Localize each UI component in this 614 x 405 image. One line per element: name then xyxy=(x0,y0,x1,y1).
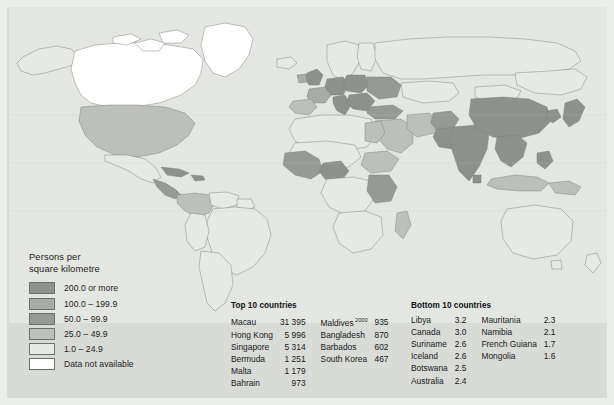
top-name-9: Barbados xyxy=(321,342,375,354)
legend-label-200-or-more: 200.0 or more xyxy=(64,283,118,293)
bottom-name-7: Mauritania xyxy=(481,315,543,327)
top-note-7: 2000 xyxy=(355,317,367,323)
bottom-value-2: 3.0 xyxy=(455,327,482,339)
bottom-10-title: Bottom 10 countries xyxy=(411,301,556,310)
top-value-blank-2 xyxy=(375,378,389,390)
legend-swatch-25-49 xyxy=(29,328,55,340)
top-name-1: Macau xyxy=(231,315,280,330)
country-ireland[interactable] xyxy=(297,74,307,83)
bottom-name-9: French Guiana xyxy=(481,339,543,351)
table-row: Hong Kong 5 996 Bangladesh 870 xyxy=(231,330,389,342)
top-value-2: 5 996 xyxy=(280,330,321,342)
top-value-4: 1 251 xyxy=(280,354,321,366)
bottom-name-blank-2 xyxy=(481,376,543,388)
bottom-name-1: Libya xyxy=(411,315,455,327)
bottom-10-table: Bottom 10 countries Libya 3.2 Mauritania… xyxy=(411,301,556,388)
bottom-name-6: Australia xyxy=(411,376,455,388)
top-value-3: 5 314 xyxy=(280,342,321,354)
legend-swatch-1-24 xyxy=(29,343,55,355)
top-value-blank-1 xyxy=(375,366,389,378)
top-10-title: Top 10 countries xyxy=(231,301,389,310)
top-value-5: 1 179 xyxy=(280,366,321,378)
country-sri-lanka[interactable] xyxy=(473,175,481,183)
table-row: Australia 2.4 xyxy=(411,376,556,388)
legend-item-no-data[interactable]: Data not available xyxy=(29,357,214,372)
legend-item-200-or-more[interactable]: 200.0 or more xyxy=(29,281,214,296)
table-row: Malta 1 179 xyxy=(231,366,389,378)
country-tasmania[interactable] xyxy=(551,260,562,269)
top-value-1: 31 395 xyxy=(280,315,321,330)
top-name-4: Bermuda xyxy=(231,354,280,366)
legend-item-25-49[interactable]: 25.0 – 49.9 xyxy=(29,326,214,341)
legend-label-no-data: Data not available xyxy=(64,359,134,369)
legend: Persons per square kilometre 200.0 or mo… xyxy=(29,251,214,372)
bottom-value-1: 3.2 xyxy=(455,315,482,327)
legend-label-25-49: 25.0 – 49.9 xyxy=(64,329,108,339)
legend-swatch-200-or-more xyxy=(29,282,55,294)
top-value-6: 973 xyxy=(280,378,321,390)
legend-title: Persons per square kilometre xyxy=(29,251,214,276)
top-name-3: Singapore xyxy=(231,342,280,354)
table-row: Iceland 2.6 Mongolia 1.6 xyxy=(411,351,556,363)
top-10-grid: Macau 31 395 Maldives2000 935 Hong Kong … xyxy=(231,315,389,391)
bottom-value-4: 2.6 xyxy=(455,351,482,363)
top-name-blank-2 xyxy=(321,378,375,390)
top-name-5: Malta xyxy=(231,366,280,378)
legend-item-1-24[interactable]: 1.0 – 24.9 xyxy=(29,342,214,357)
legend-swatch-no-data xyxy=(29,358,55,370)
top-10-table: Top 10 countries Macau 31 395 Maldives20… xyxy=(231,301,389,391)
table-row: Singapore 5 314 Barbados 602 xyxy=(231,342,389,354)
top-value-8: 870 xyxy=(375,330,389,342)
bottom-name-blank-1 xyxy=(481,363,543,375)
bottom-10-grid: Libya 3.2 Mauritania 2.3 Canada 3.0 Nami… xyxy=(411,315,556,388)
bottom-value-8: 2.1 xyxy=(544,327,556,339)
top-value-9: 602 xyxy=(375,342,389,354)
legend-label-50-99: 50.0 – 99.9 xyxy=(64,314,108,324)
bottom-value-blank-2 xyxy=(544,376,556,388)
top-name-7: Maldives2000 xyxy=(321,315,375,330)
top-value-7: 935 xyxy=(375,315,389,330)
bottom-name-8: Namibia xyxy=(481,327,543,339)
top-name-10: South Korea xyxy=(321,354,375,366)
table-row: Libya 3.2 Mauritania 2.3 xyxy=(411,315,556,327)
top-name-blank-1 xyxy=(321,366,375,378)
bottom-name-10: Mongolia xyxy=(481,351,543,363)
bottom-name-5: Botswana xyxy=(411,363,455,375)
bottom-value-6: 2.4 xyxy=(455,376,482,388)
legend-label-1-24: 1.0 – 24.9 xyxy=(64,344,103,354)
top-name-8: Bangladesh xyxy=(321,330,375,342)
top-value-10: 467 xyxy=(375,354,389,366)
legend-swatch-50-99 xyxy=(29,313,55,325)
legend-item-100-199[interactable]: 100.0 – 199.9 xyxy=(29,296,214,311)
bottom-value-5: 2.5 xyxy=(455,363,482,375)
table-row: Bahrain 973 xyxy=(231,378,389,390)
table-row: Macau 31 395 Maldives2000 935 xyxy=(231,315,389,330)
bottom-value-7: 2.3 xyxy=(544,315,556,327)
bottom-name-3: Suriname xyxy=(411,339,455,351)
top-name-2: Hong Kong xyxy=(231,330,280,342)
bottom-value-blank-1 xyxy=(544,363,556,375)
table-row: Suriname 2.6 French Guiana 1.7 xyxy=(411,339,556,351)
bottom-value-3: 2.6 xyxy=(455,339,482,351)
bottom-value-10: 1.6 xyxy=(544,351,556,363)
table-row: Canada 3.0 Namibia 2.1 xyxy=(411,327,556,339)
top-name-6: Bahrain xyxy=(231,378,280,390)
legend-swatch-100-199 xyxy=(29,298,55,310)
legend-item-50-99[interactable]: 50.0 – 99.9 xyxy=(29,311,214,326)
bottom-name-4: Iceland xyxy=(411,351,455,363)
world-density-figure: Persons per square kilometre 200.0 or mo… xyxy=(0,0,614,405)
bottom-value-9: 1.7 xyxy=(544,339,556,351)
table-row: Botswana 2.5 xyxy=(411,363,556,375)
legend-label-100-199: 100.0 – 199.9 xyxy=(64,299,117,309)
bottom-name-2: Canada xyxy=(411,327,455,339)
table-row: Bermuda 1 251 South Korea 467 xyxy=(231,354,389,366)
